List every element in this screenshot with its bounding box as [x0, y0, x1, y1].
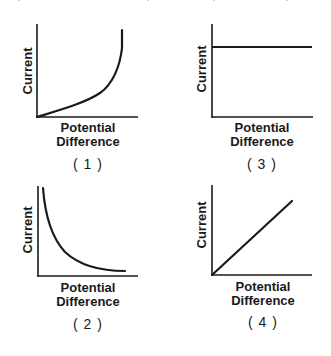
graph-4-number: ( 4 ) — [233, 314, 293, 330]
cutoff-text-remnants — [18, 0, 288, 1]
graph-1-x-label-line1: Potential — [33, 121, 143, 135]
graph-1-x-label-line2: Difference — [33, 135, 143, 149]
graph-2-x-label: Potential Difference — [33, 281, 143, 309]
graph-3 — [211, 24, 313, 118]
graph-4-x-label-line1: Potential — [208, 280, 318, 294]
graph-4 — [211, 185, 312, 276]
graph-3-y-label: Current — [195, 39, 209, 99]
graph-1-x-label: Potential Difference — [33, 121, 143, 149]
graph-4-line — [212, 201, 292, 275]
graph-1-number: ( 1 ) — [58, 156, 118, 172]
graph-3-x-label: Potential Difference — [207, 121, 317, 149]
graph-1-y-label: Current — [21, 41, 35, 101]
graph-1 — [36, 24, 138, 118]
graph-4-x-label: Potential Difference — [208, 280, 318, 308]
graph-3-x-label-line2: Difference — [207, 135, 317, 149]
graph-3-x-label-line1: Potential — [207, 121, 317, 135]
graph-2 — [37, 186, 138, 277]
graph-2-curve — [43, 188, 125, 271]
graph-2-x-label-line2: Difference — [33, 295, 143, 309]
graph-3-number: ( 3 ) — [232, 156, 292, 172]
graph-4-y-label: Current — [195, 195, 209, 255]
graph-1-curve — [37, 30, 122, 117]
graph-4-x-label-line2: Difference — [208, 294, 318, 308]
graph-2-y-label: Current — [21, 200, 35, 260]
graph-2-x-label-line1: Potential — [33, 281, 143, 295]
graph-2-number: ( 2 ) — [58, 316, 118, 332]
